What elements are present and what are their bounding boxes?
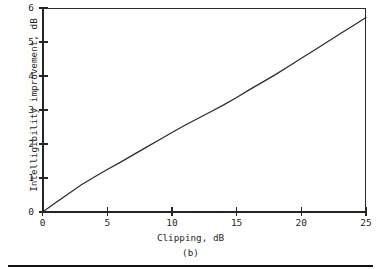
plot-area bbox=[42, 8, 366, 212]
x-axis-title: Clipping, dB bbox=[0, 233, 381, 243]
x-tick-25 bbox=[365, 207, 366, 216]
figure-caption: (b) bbox=[0, 248, 381, 258]
y-axis-title: Intelligibility improvement, dB bbox=[29, 5, 39, 205]
x-axis-line bbox=[42, 211, 367, 213]
horizontal-rule bbox=[8, 265, 373, 267]
y-tick-0 bbox=[39, 211, 48, 212]
y-tick-5 bbox=[39, 41, 48, 42]
y-tick-label-0: 0 bbox=[22, 207, 34, 217]
x-tick-20 bbox=[301, 207, 302, 216]
y-tick-2 bbox=[39, 143, 48, 144]
x-tick-label-0: 0 bbox=[34, 218, 52, 228]
y-tick-3 bbox=[39, 109, 48, 110]
x-tick-15 bbox=[236, 207, 237, 216]
x-tick-label-10: 10 bbox=[163, 218, 181, 228]
x-tick-0 bbox=[42, 207, 43, 216]
x-tick-10 bbox=[171, 207, 172, 216]
y-tick-6 bbox=[39, 7, 48, 8]
x-tick-label-20: 20 bbox=[292, 218, 310, 228]
x-tick-label-15: 15 bbox=[228, 218, 246, 228]
y-tick-1 bbox=[39, 177, 48, 178]
x-tick-5 bbox=[107, 207, 108, 216]
x-tick-label-25: 25 bbox=[357, 218, 375, 228]
y-tick-4 bbox=[39, 75, 48, 76]
x-tick-label-5: 5 bbox=[98, 218, 116, 228]
figure-panel-b: 0123456 0510152025 Intelligibility impro… bbox=[0, 0, 381, 269]
